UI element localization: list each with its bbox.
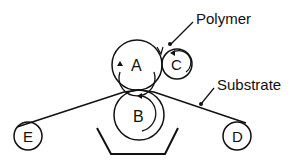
roller-c: C	[162, 49, 192, 79]
roller-e-label: E	[23, 128, 33, 145]
roll-coater-diagram: A C B E D Polymer Substrate	[0, 0, 295, 164]
roller-b: B	[114, 90, 164, 140]
leader-dot-icon	[168, 42, 172, 46]
roller-e: E	[14, 122, 42, 150]
arrowhead-icon	[137, 93, 142, 99]
roller-d: D	[223, 122, 251, 150]
polymer-tray	[97, 128, 178, 154]
rotation-arrow-icon	[142, 96, 156, 131]
polymer-callout: Polymer	[168, 10, 251, 46]
arrowhead-icon	[117, 61, 123, 66]
roller-a: A	[112, 40, 162, 96]
roller-b-label: B	[133, 108, 144, 125]
roller-d-label: D	[232, 128, 243, 145]
roller-c-label: C	[171, 56, 182, 73]
substrate-label: Substrate	[217, 76, 281, 93]
substrate-callout: Substrate	[199, 76, 281, 106]
polymer-label: Polymer	[196, 10, 251, 27]
roller-a-label: A	[131, 57, 142, 74]
leader-dot-icon	[199, 102, 203, 106]
